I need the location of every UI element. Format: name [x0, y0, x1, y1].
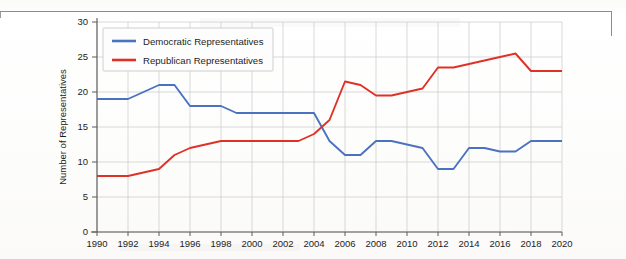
y-tick-label: 15: [77, 121, 88, 132]
x-tick-label: 2018: [520, 238, 541, 249]
legend-label-democratic: Democratic Representatives: [143, 36, 264, 47]
y-tick-label: 25: [77, 51, 88, 62]
y-tick-label: 30: [77, 16, 88, 27]
x-tick-label: 2016: [489, 238, 510, 249]
x-tick-label: 1990: [86, 238, 107, 249]
y-axis-ticks: 051015202530: [77, 16, 97, 237]
x-tick-label: 2012: [427, 238, 448, 249]
x-tick-label: 1996: [179, 238, 200, 249]
x-tick-label: 2010: [396, 238, 417, 249]
line-chart: 051015202530 199019921994199619982000200…: [0, 0, 626, 259]
x-tick-label: 2014: [458, 238, 479, 249]
y-tick-label: 5: [83, 191, 88, 202]
x-tick-label: 2006: [334, 238, 355, 249]
x-tick-label: 2000: [241, 238, 262, 249]
data-series: [97, 54, 562, 177]
y-axis-title: Number of Representatives: [57, 69, 68, 185]
x-tick-label: 2004: [303, 238, 324, 249]
x-tick-label: 2008: [365, 238, 386, 249]
x-tick-label: 2020: [551, 238, 572, 249]
x-tick-label: 1992: [117, 238, 138, 249]
y-tick-label: 20: [77, 86, 88, 97]
chart-legend: Democratic RepresentativesRepublican Rep…: [103, 28, 273, 71]
x-tick-label: 1998: [210, 238, 231, 249]
x-tick-label: 1994: [148, 238, 169, 249]
y-tick-label: 10: [77, 156, 88, 167]
x-tick-label: 2002: [272, 238, 293, 249]
legend-label-republican: Republican Representatives: [143, 55, 263, 66]
series-line-republican: [97, 54, 562, 177]
x-axis-ticks: 1990199219941996199820002002200420062008…: [86, 232, 572, 249]
y-tick-label: 0: [83, 226, 88, 237]
